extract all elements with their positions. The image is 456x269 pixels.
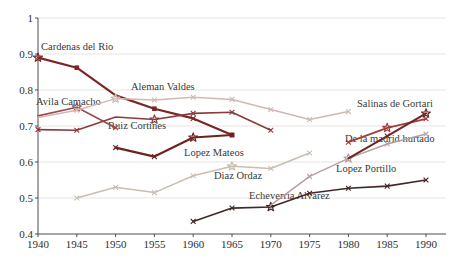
series-label-lopez-portillo: Lopez Portillo [336,163,396,174]
x-tick-label: 1945 [66,238,89,250]
series-label-salinas-de-gortari: Salinas de Gortari [357,98,433,109]
series-label-aleman-valdes: Aleman Valdes [131,81,195,92]
x-tick-label: 1960 [182,238,205,250]
series-label-cardenas-del-rio: Cardenas del Rio [41,41,113,52]
y-tick-label: 0.9 [19,48,33,60]
marker-square-cardenas-del-rio [152,106,157,111]
y-tick-label: 0.5 [19,192,33,204]
x-tick-label: 1970 [260,238,283,250]
x-tick-label: 1980 [337,238,360,250]
x-tick-label: 1975 [299,238,322,250]
x-tick-label: 1955 [143,238,166,250]
line-chart-figure: 10.90.80.70.60.50.4194019451950195519601… [0,0,456,269]
x-tick-label: 1965 [221,238,244,250]
marker-square-cardenas-del-rio [75,65,80,70]
series-label-lopez-mateos: Lopez Mateos [184,147,244,158]
x-tick-label: 1990 [415,238,438,250]
line-chart-svg: 10.90.80.70.60.50.4194019451950195519601… [0,0,456,269]
y-tick-label: 0.7 [19,120,33,132]
x-tick-label: 1985 [376,238,399,250]
y-tick-label: 1 [28,12,34,24]
y-tick-label: 0.8 [19,84,33,96]
x-tick-label: 1950 [105,238,128,250]
x-tick-label: 1940 [27,238,50,250]
y-tick-label: 0.6 [19,156,33,168]
series-label-diaz-ordaz: Diaz Ordaz [214,170,262,181]
marker-square-lopez-mateos [230,133,235,138]
